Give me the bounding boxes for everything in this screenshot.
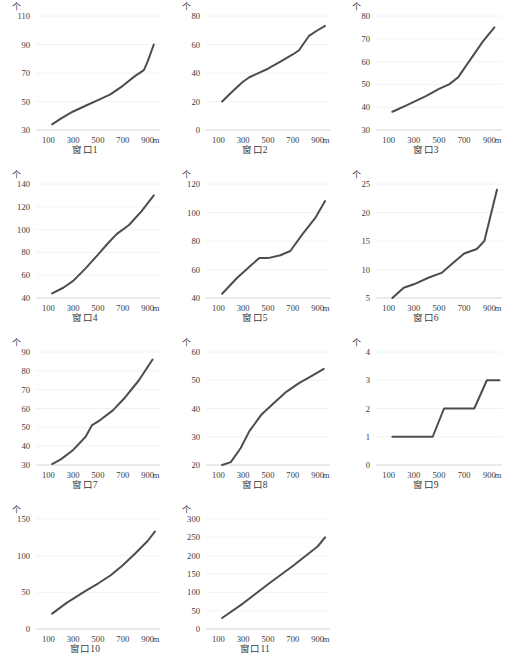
- y-tick-label: 30: [21, 460, 30, 470]
- x-tick-label: 100: [212, 135, 225, 145]
- chart-panel-inner: 个510152025100300500700900m窗口6: [340, 168, 512, 336]
- y-tick-label: 150: [17, 514, 30, 524]
- data-series-line: [52, 45, 154, 125]
- x-axis-unit-label: m: [495, 303, 502, 313]
- y-tick-label: 60: [361, 57, 370, 67]
- y-tick-label: 70: [21, 385, 30, 395]
- chart-plot-area: 304050607080100300500700900m: [340, 10, 512, 146]
- y-tick-label: 50: [21, 97, 30, 107]
- x-tick-label: 300: [237, 470, 250, 480]
- y-tick-label: 40: [361, 102, 370, 112]
- y-tick-label: 10: [361, 265, 370, 275]
- y-tick-label: 0: [366, 460, 370, 470]
- x-axis-unit-label: m: [153, 303, 160, 313]
- data-series-line: [392, 190, 497, 298]
- x-tick-label: 100: [42, 634, 55, 644]
- chart-panel-inner: 个050100150100300500700900m窗口10: [0, 503, 170, 667]
- chart-plot-area: 30405060708090100300500700900m: [0, 346, 170, 481]
- y-tick-label: 100: [17, 225, 30, 235]
- data-series-line: [222, 26, 325, 102]
- y-tick-label: 25: [361, 179, 370, 189]
- x-tick-label: 100: [382, 303, 395, 313]
- y-tick-label: 50: [21, 587, 30, 597]
- y-tick-label: 200: [187, 551, 200, 561]
- chart-caption: 窗口3: [340, 145, 512, 156]
- x-tick-label: 300: [407, 303, 420, 313]
- y-tick-label: 80: [361, 11, 370, 21]
- chart-panel-inner: 个30507090110100300500700900m窗口1: [0, 0, 170, 168]
- y-tick-label: 150: [187, 569, 200, 579]
- y-tick-label: 80: [191, 236, 200, 246]
- empty-cell: [340, 503, 512, 667]
- chart-grid: 个30507090110100300500700900m窗口1个02040608…: [0, 0, 512, 669]
- chart-panel-7: 个30405060708090100300500700900m窗口7: [0, 336, 170, 503]
- y-tick-label: 30: [361, 125, 370, 135]
- data-series-line: [52, 531, 155, 613]
- x-tick-label: 300: [407, 470, 420, 480]
- y-tick-label: 100: [17, 551, 30, 561]
- x-axis-unit-label: m: [153, 634, 160, 644]
- x-tick-label: 300: [67, 634, 80, 644]
- x-tick-label: 300: [67, 303, 80, 313]
- x-tick-label: 100: [212, 470, 225, 480]
- chart-plot-area: 050100150200250300100300500700900m: [170, 513, 340, 645]
- y-tick-label: 20: [191, 460, 200, 470]
- y-tick-label: 30: [21, 125, 30, 135]
- chart-panel-9: 个01234100300500700900m窗口9: [340, 336, 512, 503]
- x-tick-label: 500: [262, 634, 275, 644]
- data-series-line: [222, 537, 325, 618]
- x-tick-label: 500: [262, 470, 275, 480]
- chart-panel-inner: 个020406080100300500700900m窗口2: [170, 0, 340, 168]
- chart-caption: 窗口2: [170, 145, 340, 156]
- x-tick-label: 700: [286, 303, 299, 313]
- x-tick-label: 700: [286, 470, 299, 480]
- y-tick-label: 110: [17, 11, 30, 21]
- chart-panel-inner: 个406080100120140100300500700900m窗口4: [0, 168, 170, 336]
- data-series-line: [222, 201, 325, 294]
- y-tick-label: 15: [361, 236, 370, 246]
- y-tick-label: 20: [361, 208, 370, 218]
- x-axis-unit-label: m: [323, 135, 330, 145]
- chart-panel-1: 个30507090110100300500700900m窗口1: [0, 0, 170, 168]
- x-tick-label: 300: [407, 135, 420, 145]
- y-tick-label: 2: [366, 404, 370, 414]
- chart-plot-area: 30507090110100300500700900m: [0, 10, 170, 146]
- y-tick-label: 3: [366, 375, 370, 385]
- x-axis-unit-label: m: [323, 634, 330, 644]
- x-tick-label: 700: [286, 135, 299, 145]
- x-tick-label: 500: [262, 303, 275, 313]
- y-tick-label: 30: [191, 432, 200, 442]
- chart-caption: 窗口9: [340, 480, 512, 491]
- chart-panel-8: 个2030405060100300500700900m窗口8: [170, 336, 340, 503]
- y-tick-label: 40: [21, 293, 30, 303]
- x-axis-unit-label: m: [153, 135, 160, 145]
- chart-caption: 窗口5: [170, 313, 340, 324]
- chart-panel-inner: 个01234100300500700900m窗口9: [340, 336, 512, 503]
- x-tick-label: 300: [67, 470, 80, 480]
- x-tick-label: 100: [42, 470, 55, 480]
- x-tick-label: 500: [92, 135, 105, 145]
- x-tick-label: 300: [237, 135, 250, 145]
- chart-plot-area: 406080100120140100300500700900m: [0, 178, 170, 314]
- chart-panel-inner: 个304050607080100300500700900m窗口3: [340, 0, 512, 168]
- y-tick-label: 140: [17, 179, 30, 189]
- x-axis-unit-label: m: [323, 303, 330, 313]
- y-tick-label: 1: [366, 432, 370, 442]
- y-tick-label: 0: [196, 624, 200, 634]
- chart-caption: 窗口11: [170, 644, 340, 655]
- chart-panel-2: 个020406080100300500700900m窗口2: [170, 0, 340, 168]
- y-tick-label: 4: [366, 347, 371, 357]
- chart-caption: 窗口4: [0, 313, 170, 324]
- chart-plot-area: 050100150100300500700900m: [0, 513, 170, 645]
- x-tick-label: 500: [433, 135, 446, 145]
- chart-plot-area: 2030405060100300500700900m: [170, 346, 340, 481]
- chart-plot-area: 01234100300500700900m: [340, 346, 512, 481]
- x-tick-label: 100: [42, 135, 55, 145]
- x-tick-label: 300: [237, 634, 250, 644]
- x-tick-label: 700: [116, 303, 129, 313]
- x-tick-label: 100: [382, 135, 395, 145]
- x-tick-label: 100: [212, 634, 225, 644]
- y-tick-label: 70: [21, 68, 30, 78]
- chart-caption: 窗口8: [170, 480, 340, 491]
- x-tick-label: 500: [433, 303, 446, 313]
